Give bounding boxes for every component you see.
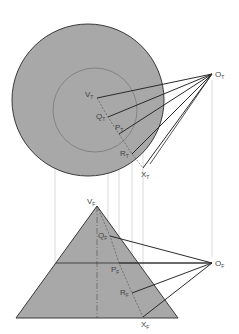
label-o-t: OT — [215, 70, 224, 80]
label-r-t-subscript: T — [126, 153, 129, 159]
label-q-t-subscript: T — [102, 116, 105, 122]
label-v-t-subscript: T — [90, 94, 93, 100]
label-v-f-subscript: F — [92, 201, 95, 207]
outer-circle — [12, 24, 164, 176]
label-o-f: OF — [215, 259, 224, 269]
label-x-f-subscript: F — [146, 324, 149, 330]
label-x-f: XF — [141, 320, 149, 330]
cone-shadow-projection-diagram: OTOFVTQTPTRTXTVFQFPFRFXF — [0, 0, 239, 334]
label-v-f: VF — [87, 197, 95, 207]
label-o-f-subscript: F — [221, 263, 224, 269]
label-p-t-subscript: T — [120, 127, 123, 133]
front-view — [16, 206, 212, 318]
label-o-t-subscript: T — [221, 74, 224, 80]
label-r-f-subscript: F — [126, 292, 129, 298]
label-q-f-subscript: F — [104, 235, 107, 241]
label-x-t: XT — [141, 170, 149, 180]
top-view — [12, 24, 212, 176]
label-p-f-subscript: F — [116, 269, 119, 275]
label-x-t-subscript: T — [146, 174, 149, 180]
